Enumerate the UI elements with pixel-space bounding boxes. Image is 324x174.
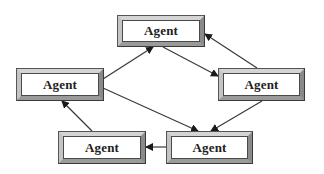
node-label: Agent — [43, 77, 77, 93]
node-body: Agent — [21, 73, 99, 96]
node-label: Agent — [85, 140, 119, 156]
node-label: Agent — [144, 23, 178, 39]
agent-node-right: Agent — [218, 68, 305, 101]
node-body: Agent — [223, 73, 300, 96]
agent-node-bottom-left: Agent — [58, 131, 146, 164]
agent-node-bottom-right: Agent — [166, 131, 253, 164]
arrow-top-to-right — [163, 47, 218, 76]
agent-node-top: Agent — [117, 15, 205, 47]
arrow-left-to-bottom_right — [103, 88, 198, 131]
node-label: Agent — [244, 77, 278, 93]
arrow-right-to-top — [205, 34, 257, 68]
agent-node-left: Agent — [16, 68, 104, 101]
arrow-bottom_left-to-left — [62, 101, 92, 131]
node-label: Agent — [192, 140, 226, 156]
agent-network-diagram: Agent Agent Agent Agent Agent — [0, 0, 324, 174]
node-body: Agent — [63, 136, 141, 159]
arrow-right-to-bottom_right — [211, 101, 262, 131]
node-body: Agent — [171, 136, 248, 159]
arrow-left-to-top — [103, 47, 153, 79]
node-body: Agent — [122, 20, 200, 42]
